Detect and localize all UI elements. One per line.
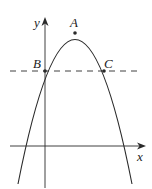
x-axis — [10, 143, 146, 150]
point-a-dot — [73, 31, 77, 35]
point-b-dot — [43, 69, 47, 73]
point-c-label: C — [104, 56, 113, 71]
y-axis-label: y — [32, 15, 40, 30]
point-b-label: B — [33, 56, 41, 71]
x-axis-label: x — [136, 149, 143, 164]
point-a-label: A — [69, 15, 78, 30]
parabola-diagram: x y A B C — [0, 0, 152, 189]
y-axis — [42, 17, 49, 188]
